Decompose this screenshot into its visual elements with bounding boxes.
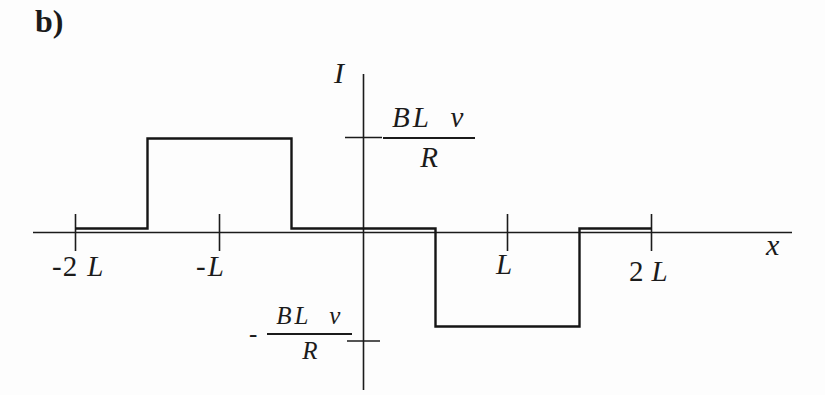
tick-symbol: L [87,250,103,282]
tick-number: -2 [52,250,78,282]
fraction: BL v R [267,302,352,365]
fraction-numerator: BL v [267,302,352,335]
plot-canvas [0,0,825,395]
tick-number: - [196,250,207,282]
y-axis-label: I [334,56,344,90]
tick-symbol: L [208,250,224,282]
x-tick-label-L: L [496,248,512,281]
x-tick-label-neg-2L: -2L [52,250,103,283]
minus-sign: - [249,320,257,348]
y-tick-label-positive: BL v R [383,101,475,174]
tick-symbol: L [652,255,668,287]
tick-number: 2 [629,255,645,287]
fraction-denominator: R [302,335,317,365]
fraction: BL v R [383,101,475,174]
y-tick-label-negative: - BL v R [249,302,352,365]
tick-symbol: L [496,248,512,280]
x-tick-label-neg-L: -L [196,250,224,283]
fraction-denominator: R [420,139,438,174]
figure-current-vs-position: b) I x -2L -L L 2L BL v R - BL v R [0,0,825,395]
x-tick-label-2L: 2L [629,255,668,288]
figure-label: b) [35,3,63,40]
x-axis-label: x [766,228,779,262]
fraction-numerator: BL v [383,101,475,139]
